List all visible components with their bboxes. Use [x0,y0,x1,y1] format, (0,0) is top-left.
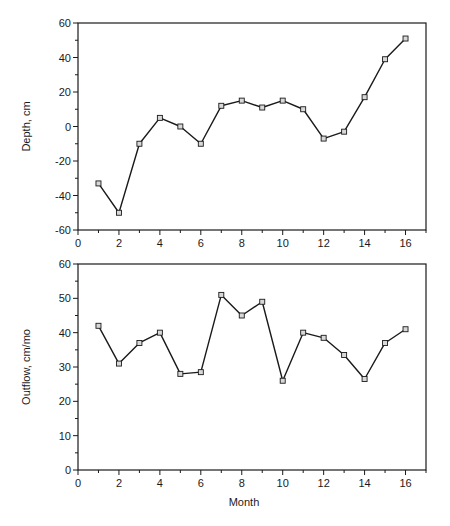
x-tick-label: 6 [198,237,204,249]
y-tick-label: 0 [65,121,71,133]
x-tick-label: 10 [277,237,289,249]
x-tick-label: 8 [239,477,245,489]
y-tick-label: -40 [55,190,71,202]
x-tick-label: 8 [239,237,245,249]
data-point-marker [96,181,101,186]
data-point-marker [321,136,326,141]
x-tick-label: 12 [318,237,330,249]
data-point-marker [280,378,285,383]
data-point-marker [178,124,183,129]
plot-frame [78,23,426,230]
depth-chart-panel: 0246810121416-60-40-200204060Depth, cm [20,17,426,249]
chart-figure: 0246810121416-60-40-200204060Depth, cm 0… [0,0,450,526]
x-tick-label: 2 [116,477,122,489]
data-point-marker [260,299,265,304]
y-tick-label: 40 [59,52,71,64]
outflow-chart-panel: 02468101214160102030405060Outflow, cm/mo… [20,258,426,508]
data-point-marker [301,107,306,112]
data-point-marker [321,335,326,340]
x-tick-label: 0 [75,477,81,489]
data-line [98,295,405,381]
data-point-marker [342,129,347,134]
x-tick-label: 4 [157,477,163,489]
y-tick-label: 60 [59,17,71,29]
y-tick-label: -60 [55,224,71,236]
data-point-marker [403,327,408,332]
x-tick-label: 0 [75,237,81,249]
y-tick-label: 10 [59,430,71,442]
x-axis-label: Month [229,496,260,508]
data-point-marker [157,115,162,120]
x-tick-label: 10 [277,477,289,489]
data-point-marker [137,141,142,146]
y-axis-label: Depth, cm [20,101,32,151]
data-point-marker [362,95,367,100]
x-tick-label: 16 [399,237,411,249]
plot-frame [78,264,426,470]
y-tick-label: 50 [59,292,71,304]
data-point-marker [219,103,224,108]
data-point-marker [239,313,244,318]
y-tick-label: 20 [59,395,71,407]
data-point-marker [157,330,162,335]
x-tick-label: 12 [318,477,330,489]
y-tick-label: 0 [65,464,71,476]
y-tick-label: 20 [59,86,71,98]
data-point-marker [239,98,244,103]
data-point-marker [116,361,121,366]
y-tick-label: 30 [59,361,71,373]
x-tick-label: 14 [358,237,370,249]
data-point-marker [116,210,121,215]
data-point-marker [403,36,408,41]
data-point-marker [219,292,224,297]
data-point-marker [178,371,183,376]
data-point-marker [280,98,285,103]
data-point-marker [137,340,142,345]
y-axis-label: Outflow, cm/mo [20,329,32,405]
data-point-marker [383,57,388,62]
x-tick-label: 6 [198,477,204,489]
data-point-marker [383,340,388,345]
x-tick-label: 16 [399,477,411,489]
data-point-marker [198,141,203,146]
data-point-marker [362,377,367,382]
data-point-marker [96,323,101,328]
data-point-marker [301,330,306,335]
x-tick-label: 2 [116,237,122,249]
x-tick-label: 4 [157,237,163,249]
data-point-marker [198,370,203,375]
data-point-marker [342,352,347,357]
x-tick-label: 14 [358,477,370,489]
y-tick-label: 40 [59,327,71,339]
y-tick-label: -20 [55,155,71,167]
data-point-marker [260,105,265,110]
y-tick-label: 60 [59,258,71,270]
data-line [98,39,405,213]
